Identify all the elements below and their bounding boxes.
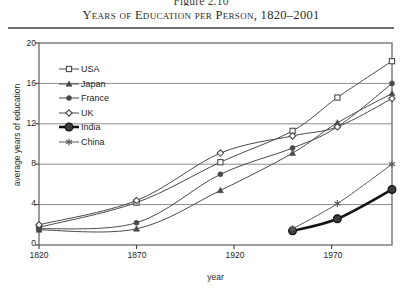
legend-label: India: [80, 122, 101, 132]
legend-item-france[interactable]: France: [58, 91, 128, 106]
legend-item-uk[interactable]: UK: [58, 106, 128, 121]
legend-label: China: [80, 137, 105, 147]
legend: USA Japan France UK India China: [58, 62, 128, 149]
legend-label: USA: [80, 64, 100, 74]
legend-item-japan[interactable]: Japan: [58, 77, 128, 92]
legend-label: Japan: [80, 79, 106, 89]
legend-item-india[interactable]: India: [58, 120, 128, 135]
legend-label: UK: [80, 108, 94, 118]
legend-label: France: [80, 93, 109, 103]
legend-marker-filled-triangle-icon: [58, 77, 80, 91]
legend-marker-filled-circle-icon: [58, 91, 80, 105]
legend-marker-asterisk-icon: [58, 135, 80, 149]
legend-marker-open-square-icon: [58, 62, 80, 76]
legend-item-china[interactable]: China: [58, 135, 128, 150]
legend-marker-open-diamond-icon: [58, 106, 80, 120]
legend-item-usa[interactable]: USA: [58, 62, 128, 77]
figure-container: Figure 2.10 Years of Education per Perso…: [0, 0, 402, 295]
legend-marker-bold-circle-icon: [58, 120, 80, 134]
